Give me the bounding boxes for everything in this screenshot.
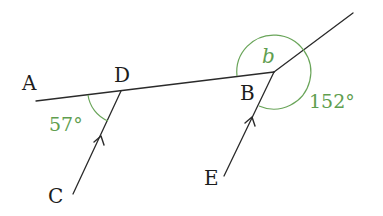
angle-arc-57 (88, 95, 108, 121)
angle-label-b: b (262, 44, 275, 68)
point-label-a: A (21, 71, 37, 95)
point-label-b: B (240, 81, 255, 105)
point-label-d: D (114, 63, 130, 87)
line-cd (73, 91, 121, 194)
point-label-e: E (204, 166, 219, 190)
line-adb (36, 72, 274, 101)
line-b-extension (274, 13, 353, 72)
angle-label-152: 152° (309, 90, 355, 112)
angle-label-57: 57° (49, 113, 83, 135)
parallel-arrow-icon (94, 136, 104, 145)
point-label-c: C (48, 184, 63, 208)
geometry-diagram: A D B C E 57° b 152° (0, 0, 383, 216)
